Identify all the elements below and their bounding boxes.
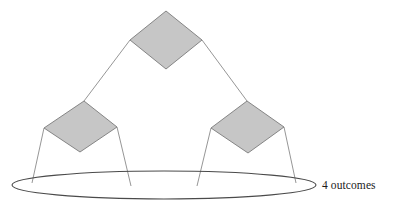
edge-right-child-to-outcome-3 [197, 128, 211, 186]
decision-node-right-child [211, 101, 284, 153]
decision-node-left-child [44, 101, 117, 152]
edge-right-child-to-outcome-4 [284, 127, 296, 183]
outcome-space-ellipse [12, 171, 316, 199]
edge-left-child-to-outcome-2 [117, 127, 131, 186]
outcome-count-label: 4 outcomes [322, 179, 376, 191]
edge-left-child-to-outcome-1 [32, 128, 44, 183]
edge-root-to-right-child [202, 40, 247, 101]
decision-node-root [130, 11, 202, 69]
decision-tree-canvas: 4 outcomes [0, 0, 396, 207]
decision-tree-diagram: 4 outcomes [0, 0, 396, 207]
edge-root-to-left-child [84, 40, 130, 101]
